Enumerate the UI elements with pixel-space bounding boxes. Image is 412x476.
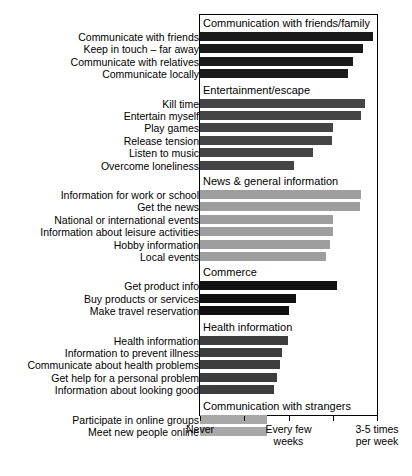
bar: [200, 148, 313, 157]
bar-row: Hobby information: [0, 239, 412, 251]
bar-row: Communicate with relatives: [0, 56, 412, 68]
axis-tick: [377, 416, 378, 421]
bar: [200, 123, 333, 132]
bar-row-label: Information for work or school: [9, 189, 199, 201]
bar-row: Entertain myself: [0, 110, 412, 122]
bar-row-label: Communicate locally: [9, 68, 199, 80]
bar-row: Local events: [0, 251, 412, 263]
axis-tick: [289, 416, 290, 421]
bar-row: Get product info: [0, 280, 412, 292]
bar: [200, 348, 282, 357]
bar: [200, 111, 361, 120]
bar-row-label: Communicate with friends: [9, 31, 199, 43]
bar-row-label: Information about leisure activities: [9, 226, 199, 238]
bar-track: [200, 335, 377, 347]
bar-row: Keep in touch – far away: [0, 43, 412, 55]
bar-track: [200, 201, 377, 213]
bar-track: [200, 359, 377, 371]
bar-row: Play games: [0, 122, 412, 134]
bar: [200, 294, 296, 303]
axis-tick-label-line: 3-5 times: [337, 423, 412, 435]
bar: [200, 252, 326, 261]
bar-track: [200, 31, 377, 43]
bar-row: Health information: [0, 335, 412, 347]
bar-row: National or international events: [0, 214, 412, 226]
axis-tick: [333, 416, 334, 421]
bar-track: [200, 214, 377, 226]
bar-row-label: Listen to music: [9, 147, 199, 159]
bar-row-label: Local events: [9, 251, 199, 263]
bar-row-label: Get the news: [9, 201, 199, 213]
axis-tick-label-line: Every few: [249, 423, 329, 435]
bar: [200, 360, 280, 369]
bar-row-label: Release tension: [9, 135, 199, 147]
bar: [200, 227, 333, 236]
bar-row-label: Information about looking good: [9, 384, 199, 396]
bar-track: [200, 98, 377, 110]
bar-track: [200, 110, 377, 122]
bar: [200, 69, 348, 78]
bar-track: [200, 122, 377, 134]
bar: [200, 161, 294, 170]
bar-row: Information about looking good: [0, 384, 412, 396]
bar: [200, 215, 333, 224]
bar-row: Make travel reservation: [0, 305, 412, 317]
bar-row: Get the news: [0, 201, 412, 213]
bar-row: Kill time: [0, 98, 412, 110]
bar-row: Release tension: [0, 135, 412, 147]
bar-row: Information for work or school: [0, 189, 412, 201]
bar-row: Communicate with friends: [0, 31, 412, 43]
axis-tick: [200, 416, 201, 421]
group-header: Communication with strangers: [203, 399, 351, 413]
horizontal-bar-chart: Communication with friends/familyCommuni…: [0, 0, 412, 476]
group-header: News & general information: [203, 174, 338, 188]
bar-track: [200, 239, 377, 251]
bar-track: [200, 56, 377, 68]
bar-track: [200, 305, 377, 317]
axis-tick-label-line: weeks: [249, 435, 329, 447]
bar-row-label: Information to prevent illness: [9, 347, 199, 359]
bar-track: [200, 147, 377, 159]
bar: [200, 190, 361, 199]
bar-row-label: Communicate about health problems: [9, 359, 199, 371]
bar-row-label: Overcome loneliness: [9, 160, 199, 172]
group-header: Entertainment/escape: [203, 83, 310, 97]
group-header: Health information: [203, 320, 292, 334]
bar-track: [200, 135, 377, 147]
bar-row: Communicate about health problems: [0, 359, 412, 371]
bar-row-label: Health information: [9, 335, 199, 347]
bar-row-label: Hobby information: [9, 239, 199, 251]
bar-track: [200, 384, 377, 396]
bar: [200, 136, 332, 145]
bar-row: Overcome loneliness: [0, 160, 412, 172]
bar: [200, 281, 337, 290]
bar-row-label: Get product info: [9, 280, 199, 292]
bar-row-label: Play games: [9, 122, 199, 134]
group-header: Commerce: [203, 265, 257, 279]
bar-track: [200, 189, 377, 201]
bar-row: Information about leisure activities: [0, 226, 412, 238]
axis-tick: [244, 416, 245, 421]
bar: [200, 385, 274, 394]
bar-row-label: National or international events: [9, 214, 199, 226]
bar: [200, 336, 288, 345]
bar-track: [200, 226, 377, 238]
bar-track: [200, 160, 377, 172]
bar-row-label: Buy products or services: [9, 293, 199, 305]
bar-row-label: Kill time: [9, 98, 199, 110]
axis-tick-label: Every fewweeks: [249, 423, 329, 447]
group-header: Communication with friends/family: [203, 16, 370, 30]
bar-row: Get help for a personal problem: [0, 372, 412, 384]
bar: [200, 99, 365, 108]
axis-tick-label-line: Never: [160, 423, 240, 435]
bar: [200, 373, 277, 382]
bar-row-label: Get help for a personal problem: [9, 372, 199, 384]
bar-track: [200, 280, 377, 292]
bar-row-label: Make travel reservation: [9, 305, 199, 317]
bar: [200, 202, 360, 211]
bar: [200, 306, 289, 315]
bar-track: [200, 68, 377, 80]
bar-row: Information to prevent illness: [0, 347, 412, 359]
bar-row: Communicate locally: [0, 68, 412, 80]
axis-tick-label: Never: [160, 423, 240, 435]
